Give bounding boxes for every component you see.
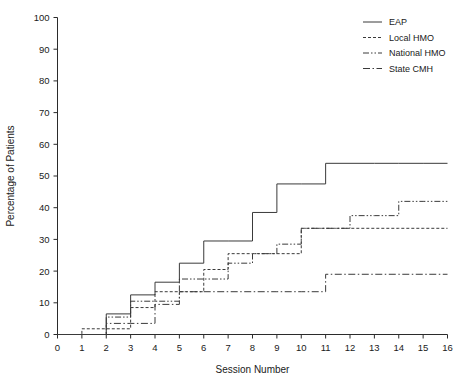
- y-tick-label: 0: [44, 329, 49, 340]
- y-tick-label: 100: [34, 12, 50, 23]
- series-line-state-cmh: [58, 274, 448, 334]
- x-tick-label: 7: [225, 342, 230, 353]
- legend-label-state-cmh: State CMH: [389, 64, 433, 74]
- x-tick-label: 2: [104, 342, 109, 353]
- x-tick-label: 10: [296, 342, 307, 353]
- x-tick-label: 15: [418, 342, 429, 353]
- series-lines: [58, 163, 448, 334]
- y-tick-label: 50: [39, 170, 50, 181]
- x-tick-label: 13: [369, 342, 380, 353]
- y-axis-title: Percentage of Patients: [5, 125, 16, 226]
- x-axis-ticks: 012345678910111213141516: [55, 335, 453, 353]
- y-tick-label: 90: [39, 44, 50, 55]
- x-tick-label: 4: [152, 342, 157, 353]
- y-tick-label: 80: [39, 75, 50, 86]
- y-tick-label: 20: [39, 266, 50, 277]
- x-axis-title: Session Number: [216, 364, 291, 375]
- legend-label-local-hmo: Local HMO: [389, 33, 434, 43]
- y-tick-label: 40: [39, 202, 50, 213]
- x-tick-label: 6: [201, 342, 206, 353]
- chart-figure: 0102030405060708090100 01234567891011121…: [0, 0, 459, 387]
- x-tick-label: 11: [321, 342, 331, 353]
- y-tick-label: 70: [39, 107, 50, 118]
- x-tick-label: 16: [442, 342, 453, 353]
- x-tick-label: 9: [274, 342, 279, 353]
- legend-label-national-hmo: National HMO: [389, 48, 446, 58]
- x-tick-label: 1: [79, 342, 84, 353]
- x-tick-label: 14: [393, 342, 404, 353]
- legend-label-eap: EAP: [389, 17, 407, 27]
- x-tick-label: 5: [177, 342, 182, 353]
- y-tick-label: 30: [39, 234, 50, 245]
- y-tick-label: 10: [39, 297, 50, 308]
- x-tick-label: 12: [345, 342, 356, 353]
- x-tick-label: 0: [55, 342, 60, 353]
- x-tick-label: 8: [250, 342, 255, 353]
- chart-legend: EAPLocal HMONational HMOState CMH: [363, 17, 446, 74]
- y-axis-ticks: 0102030405060708090100: [34, 12, 58, 340]
- series-line-eap: [58, 163, 448, 334]
- step-chart: 0102030405060708090100 01234567891011121…: [0, 0, 459, 387]
- y-tick-label: 60: [39, 139, 50, 150]
- x-tick-label: 3: [128, 342, 133, 353]
- series-line-local-hmo: [58, 228, 448, 334]
